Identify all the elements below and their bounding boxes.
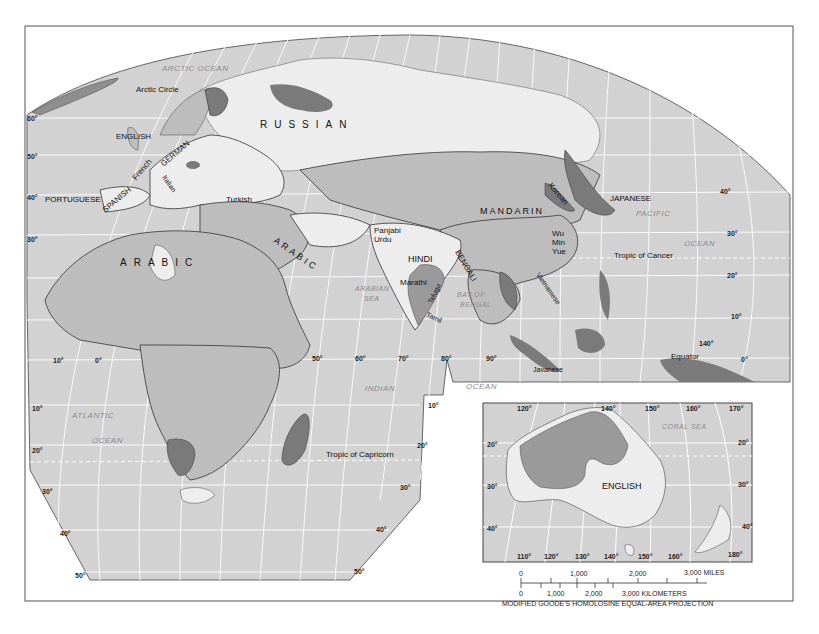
scale-mi-2000: 2,000: [629, 570, 647, 577]
scale-mi-3000: 3,000 MILES: [684, 569, 724, 576]
tick-inset-bot-110: 110°: [517, 553, 531, 560]
tick-inset-left-40: 40°: [487, 525, 498, 532]
tick-inset-left-30: 30°: [487, 483, 498, 490]
tick-srlat-10: 10°: [428, 402, 439, 409]
label-arctic-circle: Arctic Circle: [136, 86, 179, 94]
tick-inset-bot-160: 160°: [668, 553, 682, 560]
tick-lat-40: 40°: [27, 194, 38, 201]
map-canvas: [0, 0, 819, 634]
label-bay-of: BAY OF: [457, 291, 485, 298]
tick-inset-top-170: 170°: [729, 405, 743, 412]
label-arabian-sea: SEA: [364, 295, 380, 302]
scale-mi-0: 0: [519, 570, 523, 577]
tick-lon-50: 50°: [312, 355, 323, 362]
tick-lon-140: 140°: [699, 340, 713, 347]
tick-srlat-40: 40°: [376, 526, 387, 533]
scale-km-3000: 3,000 KILOMETERS: [622, 590, 687, 597]
label-wu: Wu: [552, 230, 564, 238]
tick-slat-10: 10°: [32, 405, 43, 412]
label-english-aus: ENGLISH: [602, 482, 642, 491]
label-arabian: ARABIAN: [355, 285, 389, 292]
tick-lon-10w: 10°: [53, 357, 64, 364]
tick-inset-top-160: 160°: [686, 405, 700, 412]
label-coral-sea: CORAL SEA: [662, 423, 706, 430]
tick-rlat-20: 20°: [727, 272, 738, 279]
tick-inset-bot-130: 130°: [575, 553, 589, 560]
tick-inset-bot-150: 150°: [638, 553, 652, 560]
label-english-uk: ENGLISH: [116, 133, 151, 141]
tick-srlat-50: 50°: [354, 568, 365, 575]
label-panjabi: Panjabi: [374, 227, 401, 235]
tick-slat-30: 30°: [42, 488, 53, 495]
label-russian: RUSSIAN: [260, 120, 353, 130]
scale-km-1000: 1,000: [547, 590, 565, 597]
label-atlantic: ATLANTIC: [72, 412, 114, 420]
scale-km-2000: 2,000: [585, 590, 603, 597]
tick-slat-40: 40°: [60, 530, 71, 537]
tick-inset-bot-140: 140°: [604, 553, 618, 560]
tick-rlat-0: 0°: [741, 356, 748, 363]
label-japanese: JAPANESE: [610, 195, 651, 203]
tick-inset-right-20: 20°: [738, 439, 749, 446]
tick-lon-60: 60°: [355, 355, 366, 362]
tick-inset-right-40: 40°: [742, 523, 753, 530]
label-arctic-ocean: ARCTIC OCEAN: [162, 65, 228, 73]
tick-lat-50: 50°: [27, 153, 38, 160]
tick-inset-top-120: 120°: [517, 405, 531, 412]
tick-inset-right-30: 30°: [738, 481, 749, 488]
tick-rlat-40: 40°: [720, 188, 731, 195]
tick-rlat-10: 10°: [731, 313, 742, 320]
tick-rlat-30: 30°: [727, 230, 738, 237]
tick-inset-bot-120: 120°: [544, 553, 558, 560]
label-urdu: Urdu: [374, 236, 391, 244]
label-pacific-ocean: OCEAN: [684, 240, 715, 248]
region-hungary: [186, 161, 200, 169]
tick-inset-left-20: 20°: [487, 441, 498, 448]
label-marathi: Marathi: [400, 279, 427, 287]
tick-lat-30: 30°: [27, 236, 38, 243]
label-turkish: Turkish: [226, 196, 252, 204]
label-indian: INDIAN: [365, 385, 395, 393]
tick-slat-50: 50°: [75, 572, 86, 579]
label-hindi: HINDI: [408, 255, 433, 264]
label-portuguese: PORTUGUESE: [45, 196, 101, 204]
tick-lon-0: 0°: [95, 357, 102, 364]
label-min: Min: [552, 239, 565, 247]
scale-km-0: 0: [519, 590, 523, 597]
label-mandarin: MANDARIN: [480, 207, 544, 216]
tick-lat-60: 60°: [27, 115, 38, 122]
tick-inset-top-150: 150°: [645, 405, 659, 412]
tick-lon-90: 90°: [486, 355, 497, 362]
tick-srlat-20: 20°: [417, 442, 428, 449]
tick-lon-80: 80°: [441, 355, 452, 362]
tick-inset-bot-180: 180°: [728, 551, 742, 558]
label-arabic-africa: ARABIC: [120, 258, 199, 268]
tick-srlat-30: 30°: [400, 484, 411, 491]
label-equator: Equator: [671, 353, 699, 361]
label-indian-ocean: OCEAN: [466, 383, 497, 391]
scale-mi-1000: 1,000: [570, 570, 588, 577]
label-tropic-capricorn: Tropic of Capricorn: [326, 451, 394, 459]
label-bengal: BENGAL: [460, 301, 491, 308]
label-atlantic-ocean: OCEAN: [92, 437, 123, 445]
projection-note: MODIFIED GOODE'S HOMOLOSINE EQUAL-AREA P…: [502, 600, 713, 607]
tick-inset-top-140: 140°: [601, 405, 615, 412]
label-yue: Yue: [552, 248, 566, 256]
tick-lon-70: 70°: [398, 355, 409, 362]
label-tropic-cancer: Tropic of Cancer: [614, 252, 673, 260]
tick-slat-20: 20°: [32, 447, 43, 454]
label-pacific: PACIFIC: [636, 210, 670, 218]
label-javanese: Javanese: [533, 366, 563, 373]
